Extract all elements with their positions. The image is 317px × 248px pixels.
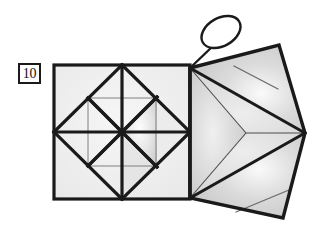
reference-numeral-box: 10 [18, 63, 41, 84]
figure-canvas: 10 [0, 0, 317, 248]
hanging-loop-ellipse [196, 9, 246, 54]
technical-drawing-svg [0, 0, 317, 248]
quilt-square-panel [54, 65, 190, 199]
fan-panel [190, 45, 305, 218]
reference-numeral-text: 10 [23, 67, 37, 81]
